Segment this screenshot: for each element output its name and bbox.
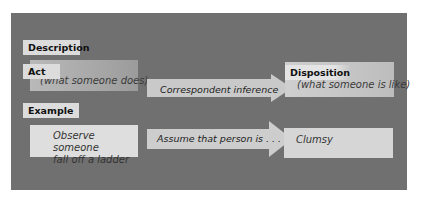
disposition-label: Disposition (285, 65, 351, 80)
observe-line-2: fall off a ladder (53, 154, 138, 166)
assume-label: Assume that person is . . . (157, 133, 281, 144)
description-section-label: Description (23, 40, 80, 55)
disposition-description: (what someone is like) (297, 79, 410, 90)
observe-line-1: Observe someone (53, 130, 138, 154)
clumsy-box: Clumsy (284, 128, 393, 158)
correspondent-inference-label: Correspondent inference (160, 84, 278, 95)
act-label: Act (23, 64, 60, 79)
example-section-label: Example (23, 103, 79, 118)
clumsy-text: Clumsy (296, 134, 333, 145)
observe-box: Observe someone fall off a ladder (30, 125, 138, 157)
